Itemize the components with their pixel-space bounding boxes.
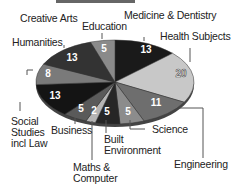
label-business: Business (51, 125, 92, 136)
value-creative: 13 (66, 52, 78, 63)
value-engineering: 11 (151, 97, 162, 108)
value-business: 5 (78, 103, 84, 114)
label-engineering: Engineering (174, 159, 228, 170)
value-medicine: 13 (140, 44, 152, 55)
label-health: Health Subjects (160, 31, 231, 42)
value-health: 20 (175, 68, 187, 79)
label-built-2: Environment (104, 145, 161, 156)
label-science: Science (152, 124, 188, 135)
value-built: 5 (104, 106, 110, 117)
label-humanities: Humanities (12, 37, 63, 48)
value-education: 5 (101, 43, 107, 54)
value-humanities: 8 (45, 68, 51, 79)
value-science: 5 (125, 106, 131, 117)
label-creative-arts: Creative Arts (20, 13, 78, 24)
value-social: 13 (49, 90, 61, 101)
label-medicine: Medicine & Dentistry (124, 10, 216, 21)
label-social-3: incl Law (11, 138, 47, 149)
value-maths: 2 (91, 105, 97, 116)
pie-slices (36, 40, 194, 127)
label-maths-2: Computer (73, 173, 118, 184)
label-education: Education (82, 21, 127, 32)
